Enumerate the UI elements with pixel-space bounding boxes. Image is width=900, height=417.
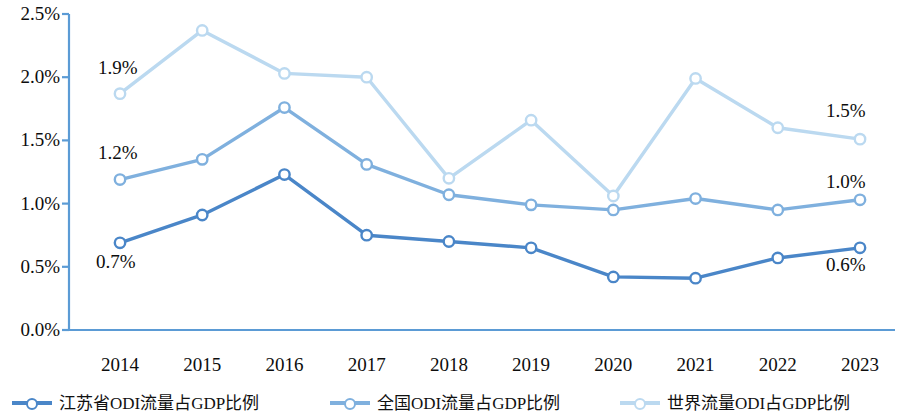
data-point-label: 0.6%: [826, 255, 866, 274]
series-point: [444, 173, 454, 183]
series-point: [279, 169, 289, 179]
legend-marker-icon: [12, 396, 52, 410]
x-axis-tick-label: 2021: [656, 355, 736, 374]
legend-item[interactable]: 全国ODI流量占GDP比例: [330, 389, 560, 417]
series-point: [773, 123, 783, 133]
series-point: [526, 243, 536, 253]
legend-dot-icon: [26, 398, 38, 410]
series-point: [197, 25, 207, 35]
x-axis-tick-label: 2018: [409, 355, 489, 374]
data-point-label: 0.7%: [96, 252, 136, 271]
series-line: [120, 30, 860, 196]
series-point: [115, 88, 125, 98]
series-point: [361, 72, 371, 82]
x-axis-tick-label: 2023: [820, 355, 900, 374]
series-point: [526, 200, 536, 210]
series-point: [526, 115, 536, 125]
y-axis-tick-label: 0.5%: [4, 257, 60, 276]
y-axis-tick-label: 2.0%: [4, 67, 60, 86]
series-line: [120, 175, 860, 279]
legend-item-label: 世界流量ODI占GDP比例: [667, 395, 850, 412]
chart-legend: 江苏省ODI流量占GDP比例全国ODI流量占GDP比例世界流量ODI占GDP比例: [0, 389, 900, 417]
series-point: [608, 205, 618, 215]
y-axis-tick-label: 0.0%: [4, 320, 60, 339]
series-point: [361, 230, 371, 240]
series-point: [115, 174, 125, 184]
legend-item-label: 全国ODI流量占GDP比例: [377, 395, 560, 412]
series-point: [197, 210, 207, 220]
legend-dot-icon: [344, 398, 356, 410]
x-axis-tick-label: 2019: [491, 355, 571, 374]
series-point: [279, 102, 289, 112]
x-axis: 2014201520162017201820192020202120222023: [0, 349, 900, 381]
series-point: [855, 134, 865, 144]
y-axis: 2.5%2.0%1.5%1.0%0.5%0.0%: [0, 0, 60, 385]
legend-item[interactable]: 世界流量ODI占GDP比例: [620, 389, 850, 417]
y-axis-tick-label: 1.0%: [4, 194, 60, 213]
series-point: [855, 195, 865, 205]
series-point: [773, 205, 783, 215]
series-point: [115, 238, 125, 248]
series-point: [444, 236, 454, 246]
series-point: [361, 159, 371, 169]
series-point: [444, 190, 454, 200]
series-point: [855, 243, 865, 253]
series-point: [608, 272, 618, 282]
x-axis-tick-label: 2020: [573, 355, 653, 374]
x-axis-tick-label: 2016: [244, 355, 324, 374]
x-axis-tick-label: 2017: [327, 355, 407, 374]
y-axis-tick-label: 2.5%: [4, 4, 60, 23]
legend-item-label: 江苏省ODI流量占GDP比例: [59, 395, 259, 412]
series-point: [197, 154, 207, 164]
legend-item[interactable]: 江苏省ODI流量占GDP比例: [12, 389, 259, 417]
x-axis-tick-label: 2015: [162, 355, 242, 374]
data-point-label: 1.2%: [98, 143, 138, 162]
data-point-label: 1.5%: [826, 101, 866, 120]
series-point: [690, 193, 700, 203]
legend-dot-icon: [634, 398, 646, 410]
line-chart: 1.9%1.2%0.7%1.5%1.0%0.6% 2.5%2.0%1.5%1.0…: [0, 0, 900, 417]
legend-marker-icon: [330, 396, 370, 410]
legend-marker-icon: [620, 396, 660, 410]
x-axis-tick-label: 2014: [80, 355, 160, 374]
series-line: [120, 108, 860, 210]
data-point-label: 1.0%: [826, 172, 866, 191]
series-point: [608, 191, 618, 201]
series-point: [690, 273, 700, 283]
y-axis-tick-label: 1.5%: [4, 130, 60, 149]
series-point: [279, 68, 289, 78]
data-point-label: 1.9%: [98, 58, 138, 77]
x-axis-tick-label: 2022: [738, 355, 818, 374]
plot-area: 1.9%1.2%0.7%1.5%1.0%0.6%: [0, 0, 900, 385]
series-point: [690, 73, 700, 83]
series-point: [773, 253, 783, 263]
